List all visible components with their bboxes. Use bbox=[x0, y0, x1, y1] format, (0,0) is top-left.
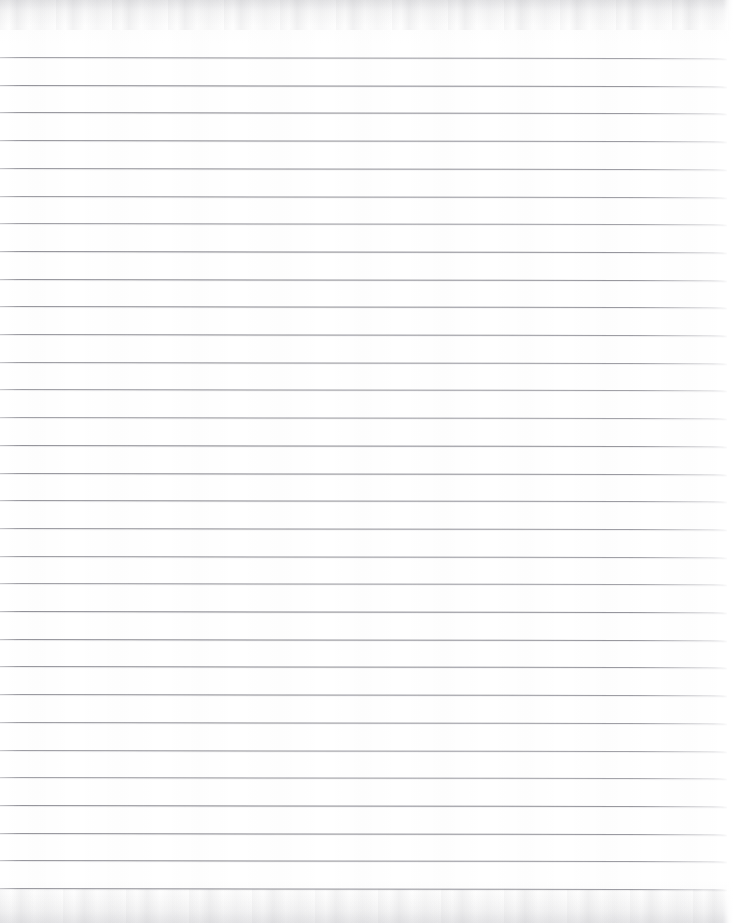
scanned-page bbox=[0, 0, 733, 923]
paper-sheet bbox=[0, 0, 733, 923]
